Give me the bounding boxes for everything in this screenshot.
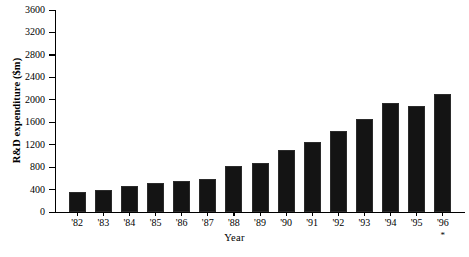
x-axis-tick: [442, 212, 443, 216]
x-axis-tick: [103, 212, 104, 216]
y-axis-tick-label: 800: [0, 162, 45, 172]
bar: [356, 119, 373, 212]
x-axis-tick: [364, 212, 365, 216]
bar: [434, 94, 451, 212]
x-axis-tick-label: '96: [428, 217, 458, 228]
y-axis-tick-label: 2800: [0, 50, 45, 60]
x-axis-tick: [233, 212, 234, 216]
bar: [330, 131, 347, 212]
x-axis-tick: [338, 212, 339, 216]
x-axis-tick: [129, 212, 130, 216]
bar: [278, 150, 295, 212]
x-axis-tick: [181, 212, 182, 216]
x-axis-tick: [390, 212, 391, 216]
y-axis-tick-label: 2000: [0, 95, 45, 105]
y-axis-tick-label: 400: [0, 185, 45, 195]
y-axis-tick-label: 1600: [0, 117, 45, 127]
bars-layer: [55, 10, 465, 212]
x-axis-tick: [416, 212, 417, 216]
bar: [199, 179, 216, 212]
y-axis-tick-label: 0: [0, 207, 45, 217]
x-axis-tick: [286, 212, 287, 216]
x-axis-tick: [77, 212, 78, 216]
x-axis-tick: [260, 212, 261, 216]
bar: [304, 142, 321, 212]
bar: [225, 166, 242, 212]
x-axis-tick: [312, 212, 313, 216]
y-axis-tick-label: 3600: [0, 5, 45, 15]
bar: [382, 103, 399, 212]
y-axis-tick-label: 1200: [0, 140, 45, 150]
bar: [121, 186, 138, 212]
x-axis-title: Year: [0, 232, 469, 243]
bar: [95, 190, 112, 212]
bar: [408, 106, 425, 212]
y-axis-tick-label: 3200: [0, 27, 45, 37]
x-axis-tick: [155, 212, 156, 216]
x-axis-tick: [207, 212, 208, 216]
bar: [173, 181, 190, 212]
bar: [147, 183, 164, 212]
bar: [69, 192, 86, 212]
bar-chart: R&D expenditure ($m) 0400800120016002000…: [0, 0, 469, 257]
y-axis-tick-label: 2400: [0, 72, 45, 82]
bar: [252, 163, 269, 212]
